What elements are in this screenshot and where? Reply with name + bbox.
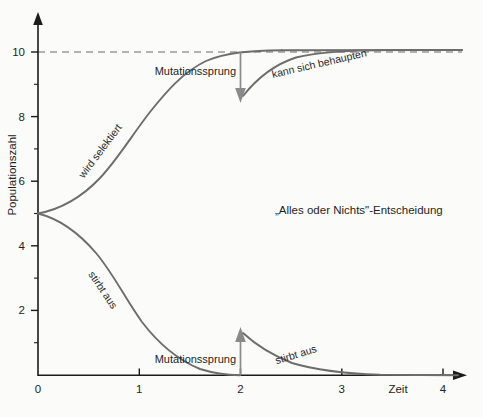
- curve-label-stirbt-aus-left: stirbt aus: [86, 269, 120, 311]
- y-axis-title: Populationszahl: [6, 134, 18, 215]
- curve-label-stirbt-aus-right: stirbt aus: [274, 342, 318, 366]
- y-tick-label-8: 8: [19, 111, 25, 123]
- y-axis-arrowhead: [33, 12, 43, 25]
- chart-canvas: 10 8 6 4 2 0 1 2 3 4 Populationszahl Zei…: [0, 0, 483, 417]
- x-tick-label-0: 0: [35, 383, 41, 395]
- mutation-jump-top-label: Mutationssprung: [155, 65, 236, 77]
- x-tick-label-3: 3: [339, 383, 345, 395]
- x-tick-label-1: 1: [136, 383, 142, 395]
- x-tick-label-2: 2: [237, 383, 243, 395]
- y-tick-label-10: 10: [12, 46, 25, 58]
- population-chart-figure: 10 8 6 4 2 0 1 2 3 4 Populationszahl Zei…: [0, 0, 483, 417]
- decision-note-label: „Alles oder Nichts"-Entscheidung: [275, 204, 443, 216]
- y-tick-label-6: 6: [19, 175, 25, 187]
- y-tick-label-2: 2: [19, 304, 25, 316]
- curve-stirbt-aus-left: [38, 214, 240, 376]
- curve-label-wird-selektiert: wird selektiert: [75, 121, 124, 180]
- mutation-jump-bottom-label: Mutationssprung: [155, 353, 236, 365]
- x-axis-title: Zeit: [388, 383, 408, 395]
- y-tick-label-4: 4: [19, 240, 26, 252]
- x-tick-label-4: 4: [440, 383, 447, 395]
